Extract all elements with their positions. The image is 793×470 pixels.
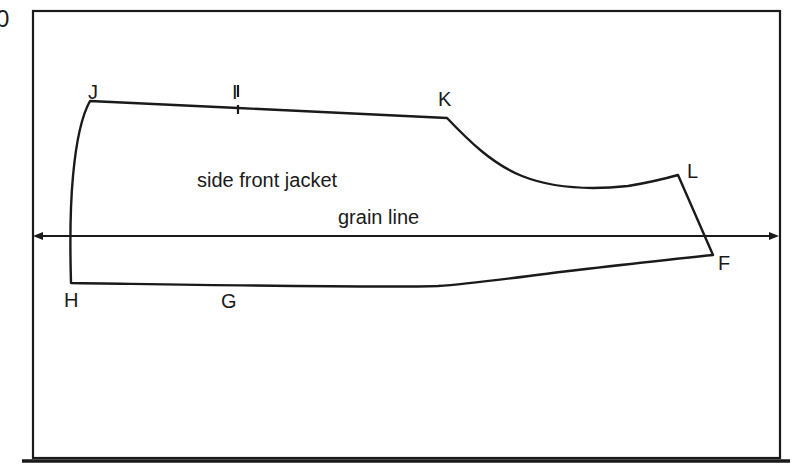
- side-front-jacket-outline: [70, 101, 713, 287]
- point-label-j: J: [88, 81, 98, 103]
- point-label-i: I: [232, 81, 238, 103]
- grain-line-arrow-left: [33, 232, 43, 240]
- piece-name-label: side front jacket: [197, 169, 338, 191]
- grain-line-label: grain line: [338, 206, 419, 228]
- page-corner-glyph: 0: [0, 5, 9, 32]
- pattern-drawing-page: 0 side front jacket grain line J I K L F…: [0, 0, 793, 470]
- pattern-diagram: 0 side front jacket grain line J I K L F…: [0, 0, 793, 470]
- drawing-frame: [33, 11, 780, 458]
- grain-line-arrow-right: [769, 232, 779, 240]
- point-label-g: G: [221, 290, 237, 312]
- point-label-k: K: [438, 88, 452, 110]
- point-label-f: F: [718, 252, 730, 274]
- point-label-l: L: [687, 160, 698, 182]
- point-label-h: H: [64, 289, 78, 311]
